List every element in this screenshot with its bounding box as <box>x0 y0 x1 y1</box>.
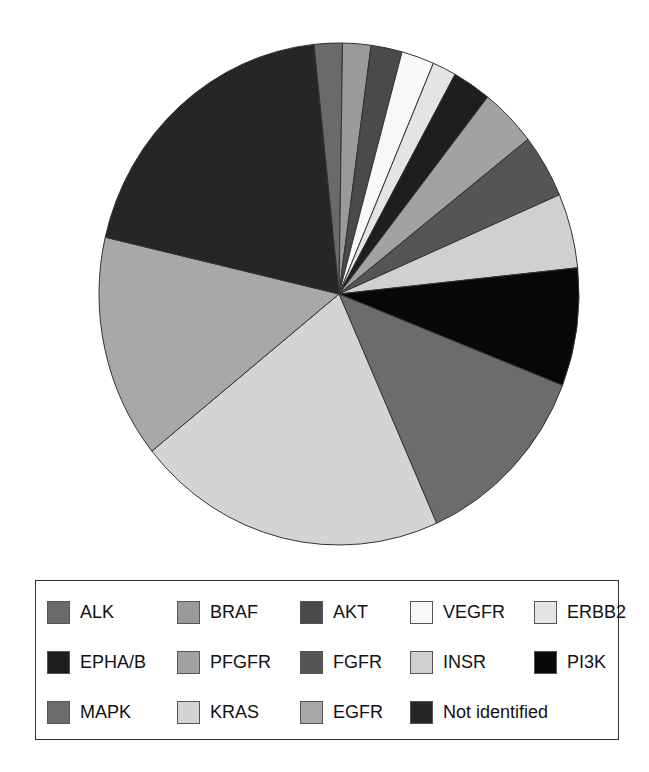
legend-label: ERBB2 <box>567 602 626 623</box>
legend-label: ALK <box>80 602 114 623</box>
legend-label: PFGFR <box>210 652 271 673</box>
legend-item: BRAF <box>177 599 258 625</box>
legend-item: KRAS <box>177 699 259 725</box>
legend-swatch <box>410 651 433 674</box>
legend-label: BRAF <box>210 602 258 623</box>
legend-label: Not identified <box>443 702 548 723</box>
legend-item: Not identified <box>410 699 548 725</box>
legend-swatch <box>300 651 323 674</box>
legend-swatch <box>47 701 70 724</box>
legend-item: INSR <box>410 649 486 675</box>
pie-chart <box>0 0 649 560</box>
legend-label: MAPK <box>80 702 131 723</box>
legend-label: KRAS <box>210 702 259 723</box>
legend: ALK BRAF AKT VEGFR ERBB2 EPHA/B PFGFR FG… <box>35 580 619 740</box>
legend-swatch <box>410 601 433 624</box>
legend-label: EGFR <box>333 702 383 723</box>
legend-item: FGFR <box>300 649 382 675</box>
legend-item: EPHA/B <box>47 649 146 675</box>
legend-label: EPHA/B <box>80 652 146 673</box>
legend-swatch <box>177 601 200 624</box>
legend-item: ERBB2 <box>534 599 626 625</box>
legend-item: PFGFR <box>177 649 271 675</box>
legend-swatch <box>47 651 70 674</box>
legend-swatch <box>410 701 433 724</box>
legend-swatch <box>300 601 323 624</box>
legend-swatch <box>47 601 70 624</box>
legend-swatch <box>300 701 323 724</box>
legend-label: FGFR <box>333 652 382 673</box>
legend-swatch <box>534 601 557 624</box>
legend-swatch <box>177 701 200 724</box>
legend-item: MAPK <box>47 699 131 725</box>
legend-item: PI3K <box>534 649 606 675</box>
legend-label: PI3K <box>567 652 606 673</box>
legend-swatch <box>177 651 200 674</box>
legend-item: EGFR <box>300 699 383 725</box>
legend-label: AKT <box>333 602 368 623</box>
legend-item: AKT <box>300 599 368 625</box>
legend-label: VEGFR <box>443 602 505 623</box>
legend-item: VEGFR <box>410 599 505 625</box>
legend-swatch <box>534 651 557 674</box>
legend-label: INSR <box>443 652 486 673</box>
legend-item: ALK <box>47 599 114 625</box>
